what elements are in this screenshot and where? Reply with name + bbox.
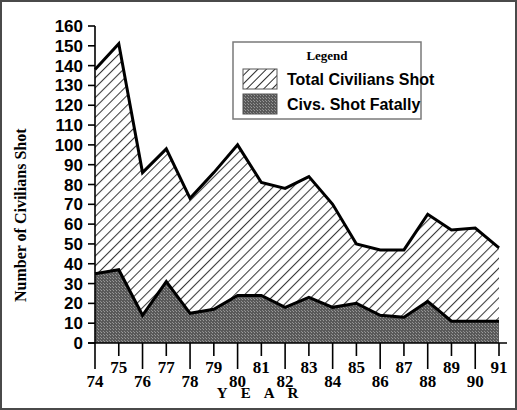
y-axis-tick-label: 140	[55, 57, 83, 76]
y-axis-tick-label: 10	[64, 314, 83, 333]
x-axis-tick-label: 87	[395, 358, 413, 377]
hatch-swatch	[243, 69, 277, 89]
x-axis-tick-label: 75	[110, 358, 127, 377]
x-axis-tick-label: 83	[300, 358, 317, 377]
x-axis-tick-label: 90	[467, 372, 484, 391]
y-axis-tick-label: 30	[64, 275, 83, 294]
x-axis-tick-label: 89	[443, 358, 460, 377]
y-axis-tick-label: 0	[74, 334, 83, 353]
solid-dark-swatch	[243, 94, 277, 114]
x-axis-tick-label: 74	[87, 372, 105, 391]
legend-title: Legend	[306, 48, 348, 63]
y-axis-tick-label: 70	[64, 195, 83, 214]
x-axis-tick-label: 78	[182, 372, 199, 391]
x-axis-tick-label: 81	[253, 358, 270, 377]
y-axis-tick-label: 110	[56, 116, 83, 135]
y-axis-tick-label: 130	[55, 76, 83, 95]
x-axis-tick-label: 86	[372, 372, 389, 391]
y-axis-title: Number of Civilians Shot	[12, 128, 29, 302]
x-axis-tick-label: 88	[419, 372, 436, 391]
y-axis: 0102030405060708090100110120130140150160	[55, 17, 95, 353]
area-chart: 0102030405060708090100110120130140150160…	[2, 2, 517, 410]
chart-legend: Legend Total Civilians Shot Civs. Shot F…	[233, 42, 435, 119]
x-axis: 747576777879808182838485868788899091	[87, 343, 508, 391]
y-axis-tick-label: 60	[64, 215, 83, 234]
x-axis-tick-label: 79	[205, 358, 222, 377]
legend-item-label-1: Civs. Shot Fatally	[287, 96, 420, 113]
x-axis-tick-label: 84	[324, 372, 342, 391]
y-axis-tick-label: 80	[64, 176, 83, 195]
x-axis-tick-label: 77	[158, 358, 176, 377]
y-axis-tick-label: 150	[55, 37, 83, 56]
x-axis-tick-label: 76	[134, 372, 151, 391]
x-axis-tick-label: 91	[491, 358, 508, 377]
y-axis-tick-label: 90	[64, 156, 83, 175]
y-axis-tick-label: 100	[55, 136, 83, 155]
x-axis-title: Y E A R	[217, 385, 304, 401]
y-axis-tick-label: 120	[55, 96, 83, 115]
legend-item-label-0: Total Civilians Shot	[287, 71, 435, 88]
y-axis-tick-label: 50	[64, 235, 83, 254]
x-axis-tick-label: 85	[348, 358, 365, 377]
y-axis-tick-label: 20	[64, 294, 83, 313]
y-axis-tick-label: 160	[55, 17, 83, 36]
y-axis-tick-label: 40	[64, 255, 83, 274]
chart-frame: 0102030405060708090100110120130140150160…	[0, 0, 517, 410]
